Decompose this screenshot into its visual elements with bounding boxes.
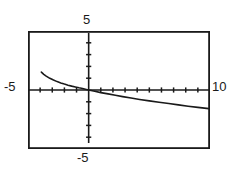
y-max-label: 5 <box>83 13 90 26</box>
plot-svg <box>28 31 210 149</box>
y-axis <box>86 33 91 143</box>
graphing-calculator-screen: 5 -5 10 -5 <box>0 0 233 174</box>
y-min-label: -5 <box>77 151 89 164</box>
x-min-label: -5 <box>4 80 16 93</box>
x-axis <box>29 87 209 92</box>
plot-area <box>28 31 210 149</box>
x-max-label: 10 <box>212 80 226 93</box>
